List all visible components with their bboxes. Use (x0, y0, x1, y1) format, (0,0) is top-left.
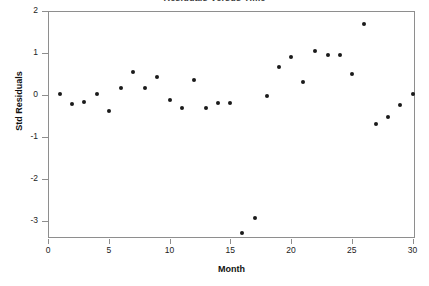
data-point (350, 72, 354, 76)
data-point (228, 101, 232, 105)
x-tick-mark (352, 239, 353, 244)
y-tick-mark (42, 137, 48, 138)
x-tick-mark (413, 239, 414, 244)
data-point (58, 92, 62, 96)
x-tick-mark (109, 239, 110, 244)
data-point (374, 122, 378, 126)
chart-title: Residuals Versus Time (0, 0, 429, 3)
y-tick-label: -3 (10, 216, 38, 225)
y-tick-mark (42, 53, 48, 54)
data-point (253, 216, 257, 220)
scatter-chart: Residuals Versus Time Std Residuals Mont… (0, 0, 429, 286)
data-point (326, 53, 330, 57)
y-tick-label: -1 (10, 132, 38, 141)
x-tick-label: 30 (401, 246, 425, 255)
data-point (338, 53, 342, 57)
data-point (265, 94, 269, 98)
y-tick-label: 2 (10, 6, 38, 15)
x-tick-label: 20 (279, 246, 303, 255)
y-tick-label: -2 (10, 174, 38, 183)
data-point (277, 65, 281, 69)
data-point (107, 109, 111, 113)
x-tick-label: 5 (97, 246, 121, 255)
data-point (119, 86, 123, 90)
data-point (301, 80, 305, 84)
x-tick-mark (48, 239, 49, 244)
data-point (180, 106, 184, 110)
y-tick-mark (42, 11, 48, 12)
x-tick-label: 15 (218, 246, 242, 255)
plot-area (48, 11, 415, 238)
x-tick-mark (291, 239, 292, 244)
data-point (168, 98, 172, 102)
data-point (95, 92, 99, 96)
x-tick-label: 10 (158, 246, 182, 255)
x-tick-label: 25 (340, 246, 364, 255)
y-tick-mark (42, 95, 48, 96)
x-tick-mark (230, 239, 231, 244)
x-tick-mark (170, 239, 171, 244)
x-tick-label: 0 (36, 246, 60, 255)
y-tick-mark (42, 179, 48, 180)
y-tick-label: 0 (10, 90, 38, 99)
x-axis-title: Month (48, 264, 415, 274)
data-point (411, 92, 415, 96)
y-tick-mark (42, 221, 48, 222)
y-tick-label: 1 (10, 48, 38, 57)
